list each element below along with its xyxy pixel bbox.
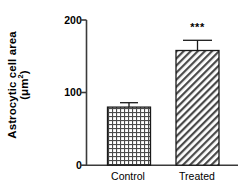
bar-treated-rect <box>176 51 219 166</box>
x-axis-label-control: Control <box>93 170 163 182</box>
bar-treated <box>176 40 219 165</box>
bar-chart: Astrocytic cell area (μm2) 200 100 0 <box>0 0 245 188</box>
bar-control-rect <box>108 107 151 165</box>
significance-marker-treated: *** <box>175 22 220 33</box>
x-axis-label-treated: Treated <box>162 170 232 182</box>
bar-control <box>108 103 151 166</box>
